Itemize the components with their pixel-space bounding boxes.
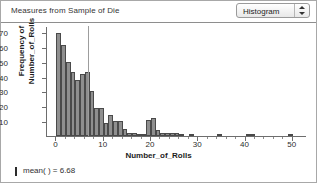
x-axis-minor-tick [74,137,75,139]
x-axis-minor-tick [84,137,85,139]
histogram-bar[interactable] [250,134,255,136]
histogram-bar[interactable] [288,134,293,136]
x-axis-minor-tick [235,137,236,139]
x-axis-minor-tick [169,137,170,139]
x-axis-tick-label: 30 [185,140,209,149]
x-axis-minor-tick [159,137,160,139]
x-axis-minor-tick [254,137,255,139]
y-axis-tick-mark [42,92,46,93]
chevron-down-icon [299,12,305,15]
y-axis-tick-label: 50 [0,58,8,67]
mean-reference-line[interactable] [88,26,89,136]
y-axis-tick-label: 30 [0,88,8,97]
x-axis-tick-mark [197,137,198,141]
x-axis-minor-tick [216,137,217,139]
x-axis-minor-tick [141,137,142,139]
y-axis-tick-label: 20 [0,103,8,112]
y-axis-tick-label: 10 [0,118,8,127]
x-axis-tick-label: 40 [233,140,257,149]
chevron-up-icon [299,6,305,9]
plot-type-label: Histogram [243,7,279,16]
x-axis-minor-tick [65,137,66,139]
x-axis-minor-tick [93,137,94,139]
x-axis-minor-tick [263,137,264,139]
vertical-line-marker-icon [15,167,17,176]
x-axis-tick-mark [245,137,246,141]
x-axis-tick-label: 20 [138,140,162,149]
x-axis-tick-mark [150,137,151,141]
mean-value-text: mean( ) = 6.68 [23,166,75,175]
up-down-stepper-icon[interactable] [294,4,309,17]
x-axis-tick-mark [292,137,293,141]
x-axis-minor-tick [282,137,283,139]
x-axis-tick-label: 0 [43,140,67,149]
histogram-window: Measures from Sample of Die Histogram Fr… [0,0,317,183]
y-axis-tick-label: 70 [0,28,8,37]
window-header: Measures from Sample of Die Histogram [1,1,316,23]
plot-area[interactable] [46,27,306,137]
x-axis-tick-label: 50 [280,140,304,149]
x-axis-minor-tick [226,137,227,139]
y-axis-tick-mark [42,48,46,49]
y-axis-tick-mark [42,33,46,34]
y-axis-tick-label: 60 [0,43,8,52]
x-axis-minor-tick [273,137,274,139]
y-axis-tick-mark [42,122,46,123]
x-axis-label: Number_of_Rolls [1,151,316,160]
y-axis-tick-label: 40 [0,73,8,82]
x-axis-tick-mark [103,137,104,141]
x-axis-minor-tick [131,137,132,139]
histogram-bar[interactable] [179,134,184,136]
x-axis-minor-tick [188,137,189,139]
x-axis-minor-tick [178,137,179,139]
x-axis-minor-tick [207,137,208,139]
y-axis-label: Frequency of Number_of_Rolls [17,0,37,103]
histogram-bar[interactable] [217,134,222,136]
y-axis-tick-mark [42,78,46,79]
x-axis-minor-tick [112,137,113,139]
y-axis-tick-mark [42,107,46,108]
plot-type-dropdown[interactable]: Histogram [236,3,310,18]
measures-footer: mean( ) = 6.68 [1,162,316,182]
x-axis-tick-mark [55,137,56,141]
x-axis-tick-label: 10 [91,140,115,149]
histogram-bar[interactable] [189,134,194,136]
x-axis-minor-tick [122,137,123,139]
y-axis-tick-mark [42,63,46,64]
